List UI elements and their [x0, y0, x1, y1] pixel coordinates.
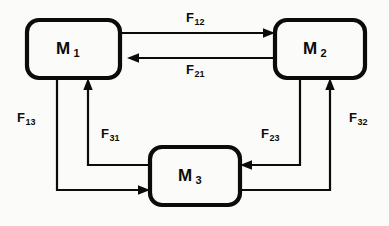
flow-label-f21-base: F [186, 62, 194, 77]
flow-label-f21-subscript: 21 [194, 69, 204, 79]
flow-label-f12-subscript: 12 [194, 17, 204, 27]
node-label-m1-base: M [56, 39, 70, 58]
flow-label-f13-subscript: 13 [25, 117, 35, 127]
node-label-m1: M1 [56, 39, 80, 59]
flow-label-f32-base: F [349, 110, 357, 125]
flow-label-f21: F21 [186, 62, 204, 77]
flow-label-f23: F23 [261, 126, 279, 141]
flow-line-f23 [249, 78, 300, 165]
node-label-m2-subscript: 2 [320, 47, 326, 59]
flow-diagram-graphics [0, 0, 389, 226]
flow-label-f12: F12 [186, 10, 204, 25]
flow-line-f32 [240, 87, 330, 190]
flow-label-f31: F31 [101, 126, 119, 141]
node-label-m3-base: M [178, 166, 192, 185]
flow-label-f13: F13 [17, 110, 35, 125]
node-label-m2-base: M [303, 39, 317, 58]
flow-label-f13-base: F [17, 110, 25, 125]
diagram-canvas: M1 M2 M3 F12 F21 F13 F31 F23 F32 [0, 0, 389, 226]
flow-line-f13 [57, 78, 141, 190]
flow-label-f31-base: F [101, 126, 109, 141]
flow-label-f32-subscript: 32 [357, 117, 367, 127]
flow-label-f23-base: F [261, 126, 269, 141]
node-label-m3-subscript: 3 [195, 174, 201, 186]
node-label-m1-subscript: 1 [73, 47, 79, 59]
node-label-m3: M3 [178, 166, 202, 186]
flow-label-f32: F32 [349, 110, 367, 125]
arrow-head-f21 [127, 53, 139, 62]
flow-label-f31-subscript: 31 [109, 133, 119, 143]
flow-label-f23-subscript: 23 [269, 133, 279, 143]
node-label-m2: M2 [303, 39, 327, 59]
flow-label-f12-base: F [186, 10, 194, 25]
